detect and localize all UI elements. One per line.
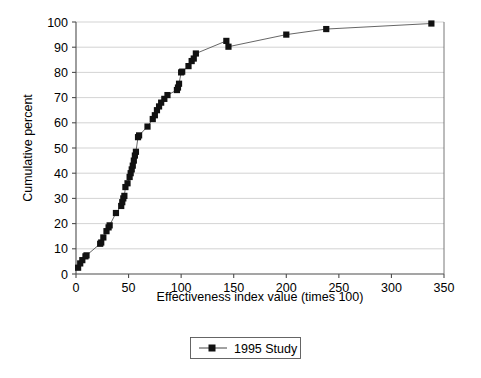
data-point-marker [133, 149, 139, 155]
y-tick-label: 30 [54, 192, 68, 206]
legend-sample-marker [209, 345, 216, 352]
y-tick-label: 70 [54, 91, 68, 105]
x-tick-label: 0 [73, 281, 80, 295]
y-tick-label: 10 [54, 242, 68, 256]
y-tick-label: 40 [54, 167, 68, 181]
gridlines [76, 22, 444, 249]
y-tick-label: 90 [54, 41, 68, 55]
x-axis-title: Effectiveness index value (times 100) [157, 290, 364, 304]
data-point-marker [100, 234, 106, 240]
data-point-marker [164, 92, 170, 98]
data-point-marker [136, 132, 142, 138]
data-point-marker [144, 123, 150, 129]
data-point-marker [193, 50, 199, 56]
data-point-marker [283, 32, 289, 38]
data-point-marker [225, 44, 231, 50]
data-point-marker [83, 252, 89, 258]
data-point-marker [107, 222, 113, 228]
x-tick-label: 50 [122, 281, 136, 295]
legend-label-1995-study: 1995 Study [234, 342, 298, 356]
data-point-marker [428, 20, 434, 26]
data-point-marker [323, 26, 329, 32]
x-tick-label: 300 [381, 281, 402, 295]
series-markers [75, 20, 434, 270]
series-line [78, 24, 431, 268]
y-tick-label: 20 [54, 217, 68, 231]
data-point-marker [176, 81, 182, 87]
y-axis-title: Cumulative percent [21, 94, 35, 202]
y-tick-label: 50 [54, 142, 68, 156]
y-axis-ticks: 0102030405060708090100 [47, 16, 76, 282]
y-tick-label: 80 [54, 66, 68, 80]
y-tick-label: 60 [54, 116, 68, 130]
chart-legend: 1995 Study [191, 338, 301, 359]
chart-figure: 0102030405060708090100 05010015020025030… [0, 0, 481, 378]
data-point-marker [121, 193, 127, 199]
data-point-marker [124, 180, 130, 186]
data-point-marker [179, 69, 185, 75]
y-tick-label: 0 [61, 268, 68, 282]
cumulative-percent-chart: 0102030405060708090100 05010015020025030… [0, 0, 481, 378]
x-tick-label: 350 [434, 281, 455, 295]
data-point-marker [223, 38, 229, 44]
y-tick-label: 100 [47, 16, 68, 30]
data-point-marker [113, 210, 119, 216]
series-1995-study [75, 20, 434, 270]
